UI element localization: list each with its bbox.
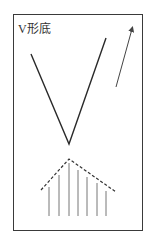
up-arrow-icon [116,29,132,87]
v-bottom-diagram [0,0,152,242]
v-shape-line [31,38,106,144]
